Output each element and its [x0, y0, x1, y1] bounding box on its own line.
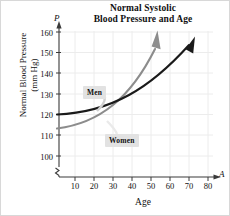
men-callout-pointer [97, 97, 105, 111]
y-axis [56, 21, 62, 177]
y-axis-break-icon [56, 168, 60, 176]
plot-area [1, 1, 230, 216]
x-axis [59, 174, 221, 179]
men-curve [57, 37, 195, 115]
chart-figure: Normal Systolic Blood Pressure and Age N… [0, 0, 230, 216]
x-tick-marks [75, 177, 208, 181]
women-label: Women [105, 134, 139, 147]
men-label: Men [83, 86, 106, 99]
women-callout-pointer [107, 121, 117, 134]
